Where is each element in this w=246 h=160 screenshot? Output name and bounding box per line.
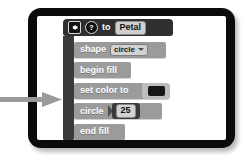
circle-block[interactable]: circle 25 <box>74 103 162 119</box>
shape-dropdown[interactable]: circle <box>110 44 148 56</box>
begin-fill-block-label: begin fill <box>80 66 117 75</box>
end-fill-block-label: end fill <box>80 127 109 136</box>
wrapper-spine <box>63 36 74 140</box>
color-swatch[interactable] <box>148 86 165 96</box>
circle-size-slot[interactable]: 25 <box>108 103 140 119</box>
procedure-definition-header[interactable]: ? to Petal <box>63 19 173 36</box>
circle-size-field-frame[interactable]: 25 <box>112 103 140 119</box>
begin-fill-block[interactable]: begin fill <box>74 62 131 78</box>
chevron-down-icon <box>138 48 144 51</box>
screenshot-root: ? to Petal shape circle <box>0 0 246 160</box>
shape-dropdown-value: circle <box>114 46 135 54</box>
shape-block[interactable]: shape circle <box>74 42 166 58</box>
definition-body-wrapper: shape circle begin fill set c <box>63 36 205 140</box>
set-color-to-block-label: set color to <box>80 86 129 95</box>
set-color-to-block[interactable]: set color to <box>74 83 144 99</box>
tablet-screen: ? to Petal shape circle <box>37 16 226 140</box>
procedure-name-field[interactable]: Petal <box>115 21 147 35</box>
circle-block-label: circle <box>80 107 104 116</box>
end-fill-block[interactable]: end fill <box>74 124 125 140</box>
tablet-device: ? to Petal shape circle <box>28 8 235 148</box>
shape-block-label: shape <box>80 45 106 54</box>
gear-icon[interactable] <box>68 21 81 34</box>
question-mark-icon[interactable]: ? <box>85 21 98 34</box>
circle-size-input[interactable]: 25 <box>116 104 136 118</box>
color-swatch-slot[interactable] <box>142 83 170 99</box>
body-block-list: shape circle begin fill set c <box>74 36 205 140</box>
block-script-stack[interactable]: ? to Petal shape circle <box>63 19 205 140</box>
definition-keyword: to <box>102 23 111 32</box>
